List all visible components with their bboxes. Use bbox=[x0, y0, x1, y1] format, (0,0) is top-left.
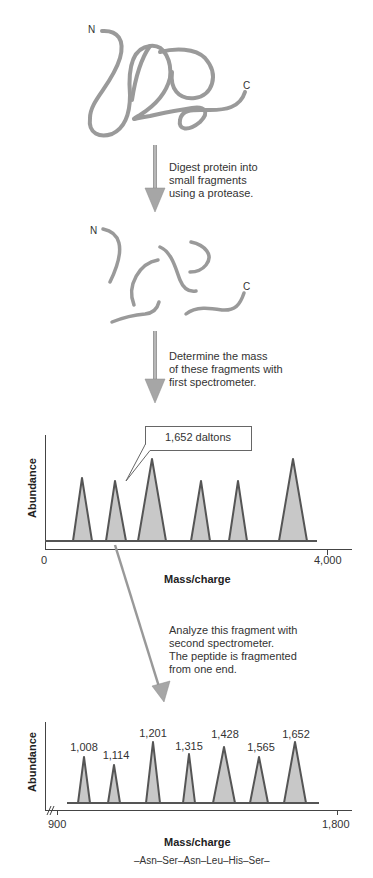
step-3-text: Analyze this fragment with second spectr… bbox=[169, 624, 297, 676]
chart-1-x-tick-max: 4,000 bbox=[314, 554, 342, 566]
step-2-line-2: of these fragments with bbox=[169, 363, 283, 376]
chart-1-x-tick-min: 0 bbox=[41, 554, 47, 566]
chart-1-spectrum bbox=[45, 459, 317, 541]
fragment-c-terminus-label: C bbox=[243, 281, 250, 292]
step-2-line-3: first spectrometer. bbox=[169, 376, 283, 389]
down-arrow-icon bbox=[145, 331, 165, 403]
step-2-line-1: Determine the mass bbox=[169, 350, 283, 363]
protein-fragments-icon bbox=[103, 229, 244, 322]
step-3-line-2: second spectrometer. bbox=[169, 637, 297, 650]
callout-label: 1,652 daltons bbox=[165, 431, 231, 443]
chart-2-x-tick-min: 900 bbox=[48, 818, 66, 830]
chart-2-x-tick-max: 1,800 bbox=[322, 818, 350, 830]
n-terminus-label: N bbox=[88, 24, 95, 35]
step-3-line-3: The peptide is fragmented bbox=[169, 650, 297, 663]
chart-1-y-axis-title: Abundance bbox=[26, 458, 38, 518]
chart-2-y-axis-title: Abundance bbox=[26, 732, 38, 792]
peak-label: 1,565 bbox=[247, 741, 275, 753]
step-1-line-3: using a protease. bbox=[169, 187, 258, 200]
peak-label: 1,428 bbox=[211, 728, 239, 740]
folded-protein-icon bbox=[90, 31, 245, 136]
c-terminus-label: C bbox=[243, 80, 250, 91]
diagonal-arrow-icon bbox=[115, 545, 170, 702]
fragment-n-terminus-label: N bbox=[90, 225, 97, 236]
peak-label: 1,652 bbox=[282, 728, 310, 740]
step-1-line-1: Digest protein into bbox=[169, 161, 258, 174]
step-2-text: Determine the mass of these fragments wi… bbox=[169, 350, 283, 389]
step-3-line-1: Analyze this fragment with bbox=[169, 624, 297, 637]
peak-label: 1,008 bbox=[70, 741, 98, 753]
peak-label: 1,201 bbox=[139, 727, 167, 739]
step-1-line-2: small fragments bbox=[169, 174, 258, 187]
chart-2-x-axis-title: Mass/charge bbox=[164, 836, 231, 848]
peak-label: 1,315 bbox=[175, 740, 203, 752]
down-arrow-icon bbox=[145, 145, 165, 212]
step-1-text: Digest protein into small fragments usin… bbox=[169, 161, 258, 200]
peak-label: 1,114 bbox=[103, 749, 130, 761]
peptide-sequence: –Asn–Ser–Asn–Leu–His–Ser– bbox=[134, 855, 270, 866]
chart-1-x-axis-title: Mass/charge bbox=[164, 573, 231, 585]
step-3-line-4: from one end. bbox=[169, 663, 297, 676]
